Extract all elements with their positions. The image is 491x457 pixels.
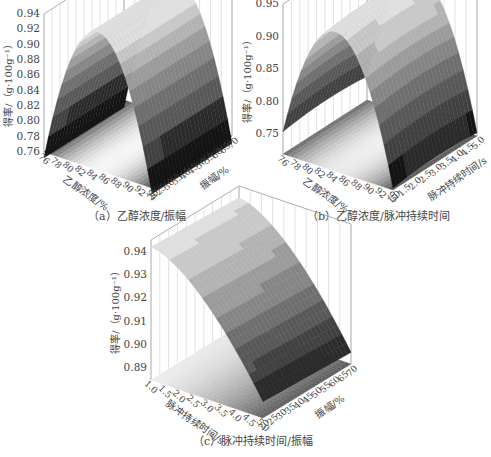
- svg-text:0.84: 0.84: [17, 84, 41, 96]
- svg-text:0.85: 0.85: [256, 62, 279, 74]
- z-axis-label: 得率/（g·100g⁻¹）: [2, 39, 14, 127]
- svg-text:0.93: 0.93: [124, 268, 147, 280]
- z-axis-ticks: 0.890.900.910.920.930.94: [124, 245, 148, 374]
- svg-text:0.92: 0.92: [124, 291, 147, 303]
- svg-text:0.90: 0.90: [124, 338, 147, 350]
- z-axis-label: 得率/（g·100g⁻¹）: [241, 35, 253, 123]
- caption-a: （a）乙醇浓度/振幅: [88, 207, 186, 223]
- svg-text:0.75: 0.75: [256, 127, 279, 139]
- svg-text:0.94: 0.94: [17, 7, 41, 19]
- z-axis-label: 得率/（g·100g⁻¹）: [109, 266, 121, 354]
- chart-panel-c: 0.890.900.910.920.930.94得率/（g·100g⁻¹）1.0…: [115, 232, 375, 457]
- svg-text:0.92: 0.92: [17, 22, 40, 34]
- svg-text:0.76: 0.76: [17, 145, 41, 157]
- surface-plot-a: 0.760.780.800.820.840.860.880.900.920.94…: [0, 0, 245, 200]
- svg-text:0.89: 0.89: [124, 361, 147, 373]
- svg-text:0.90: 0.90: [17, 38, 40, 50]
- svg-text:0.88: 0.88: [17, 53, 40, 65]
- caption-c: （c）脉冲持续时间/振幅: [193, 432, 313, 448]
- chart-panel-a: 0.760.780.800.820.840.860.880.900.920.94…: [0, 0, 245, 230]
- svg-text:0.90: 0.90: [256, 30, 279, 42]
- surface-plot-c: 0.890.900.910.920.930.94得率/（g·100g⁻¹）1.0…: [115, 232, 375, 427]
- chart-panel-b: 0.750.800.850.900.95得率/（g·100g⁻¹）7678808…: [245, 0, 491, 230]
- surface-plot-b: 0.750.800.850.900.95得率/（g·100g⁻¹）7678808…: [245, 0, 491, 200]
- svg-text:0.91: 0.91: [124, 315, 147, 327]
- svg-text:0.78: 0.78: [17, 130, 40, 142]
- svg-text:0.94: 0.94: [124, 245, 148, 257]
- z-axis-ticks: 0.760.780.800.820.840.860.880.900.920.94: [17, 7, 41, 157]
- svg-text:0.80: 0.80: [17, 114, 40, 126]
- svg-text:0.82: 0.82: [17, 99, 40, 111]
- svg-text:0.86: 0.86: [17, 68, 41, 80]
- svg-text:0.95: 0.95: [256, 0, 279, 9]
- svg-text:0.80: 0.80: [256, 95, 279, 107]
- z-axis-ticks: 0.750.800.850.900.95: [256, 0, 279, 139]
